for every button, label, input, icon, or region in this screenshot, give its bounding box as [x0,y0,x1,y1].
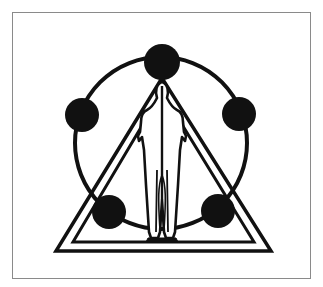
node-upper-right-icon [222,97,256,131]
node-lower-left-icon [92,195,126,229]
node-lower-right-icon [201,194,235,228]
node-top-icon [144,44,180,80]
node-upper-left-icon [65,98,99,132]
human-figure-diagram [0,0,323,287]
